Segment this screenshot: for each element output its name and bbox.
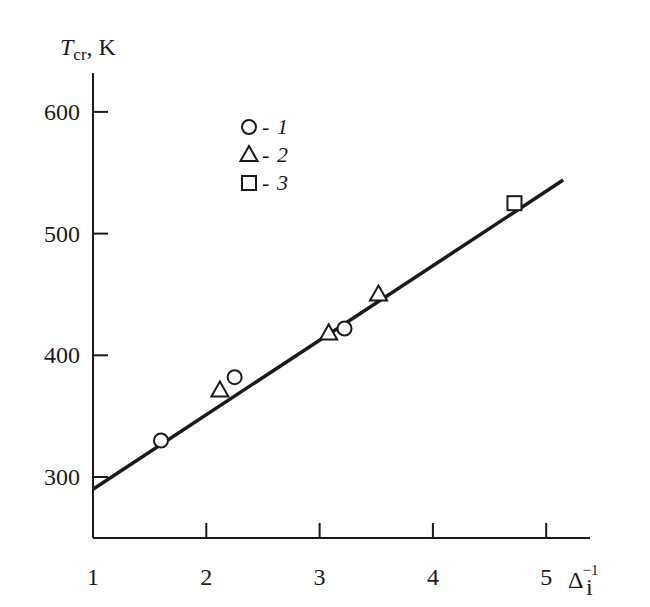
y-tick-label: 300 xyxy=(44,464,80,490)
x-axis-title-subscript: i xyxy=(586,574,593,600)
x-ticks: 12345 xyxy=(87,523,552,590)
y-tick-label: 600 xyxy=(44,99,80,125)
x-tick-label: 5 xyxy=(540,564,552,590)
x-axis-title: Δ−1 xyxy=(568,562,598,593)
x-tick-label: 3 xyxy=(314,564,326,590)
y-axis-title: Tcr, K xyxy=(60,34,117,64)
legend-dash: - xyxy=(262,114,269,139)
circle-marker xyxy=(338,322,352,336)
legend-label: 1 xyxy=(277,114,288,139)
x-tick-label: 4 xyxy=(427,564,439,590)
legend-label: 2 xyxy=(277,142,288,167)
triangle-marker xyxy=(211,382,228,397)
legend-dash: - xyxy=(262,142,269,167)
legend-circle-icon xyxy=(242,120,256,134)
triangle-marker xyxy=(370,285,387,300)
legend: -1-2-3 xyxy=(241,114,289,195)
axes xyxy=(93,73,590,538)
y-tick-label: 500 xyxy=(44,221,80,247)
y-tick-label: 400 xyxy=(44,342,80,368)
data-markers xyxy=(154,196,521,447)
x-tick-label: 2 xyxy=(200,564,212,590)
legend-triangle-icon xyxy=(241,146,258,161)
circle-marker xyxy=(154,433,168,447)
x-tick-label: 1 xyxy=(87,564,99,590)
circle-marker xyxy=(228,370,242,384)
y-ticks: 300400500600 xyxy=(44,99,108,490)
scatter-chart: 300400500600 12345 Tcr, K Δ−1 i -1-2-3 xyxy=(0,0,650,607)
square-marker xyxy=(507,196,521,210)
legend-label: 3 xyxy=(276,170,288,195)
legend-dash: - xyxy=(262,170,269,195)
legend-square-icon xyxy=(242,176,256,190)
